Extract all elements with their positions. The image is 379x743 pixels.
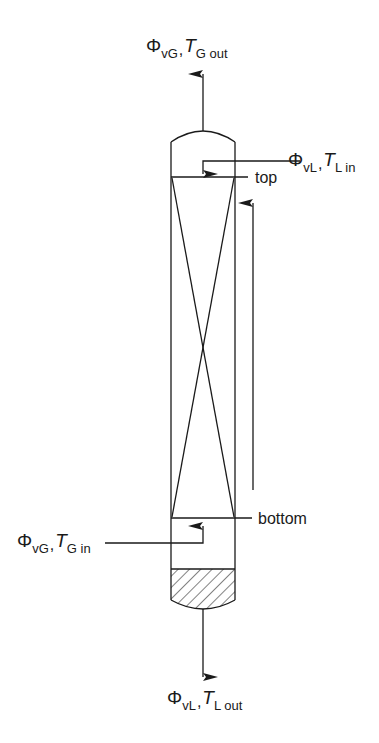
temp-symbol: T <box>55 530 67 551</box>
separator: , <box>197 693 201 710</box>
temp-symbol: T <box>202 687 214 708</box>
label-top: top <box>255 170 277 186</box>
separator: , <box>179 41 183 58</box>
label-liquid-in: ΦvL,TL in <box>288 150 355 169</box>
temp-subscript: L in <box>335 160 355 175</box>
label-bottom: bottom <box>258 511 307 527</box>
column-drawing <box>0 0 379 743</box>
label-gas-in: ΦvG,TG in <box>17 531 91 550</box>
flow-subscript: vG <box>32 541 49 556</box>
packed-column-diagram: ΦvG,TG out ΦvL,TL in top bottom ΦvG,TG i… <box>0 0 379 743</box>
temp-subscript: G in <box>67 541 91 556</box>
temp-subscript: L out <box>214 698 242 713</box>
phi-symbol: Φ <box>167 687 182 708</box>
label-gas-out: ΦvG,TG out <box>146 36 228 55</box>
phi-symbol: Φ <box>288 149 303 170</box>
flow-subscript: vL <box>303 160 317 175</box>
flow-subscript: vL <box>182 698 196 713</box>
gas-inlet-line <box>105 526 203 543</box>
liquid-inlet-line <box>203 161 300 174</box>
separator: , <box>318 155 322 172</box>
temp-symbol: T <box>323 149 335 170</box>
flow-subscript: vG <box>161 46 178 61</box>
phi-symbol: Φ <box>146 35 161 56</box>
temp-subscript: G out <box>196 46 228 61</box>
separator: , <box>50 536 54 553</box>
phi-symbol: Φ <box>17 530 32 551</box>
temp-symbol: T <box>184 35 196 56</box>
top-dome <box>171 131 235 142</box>
label-liquid-out: ΦvL,TL out <box>167 688 242 707</box>
